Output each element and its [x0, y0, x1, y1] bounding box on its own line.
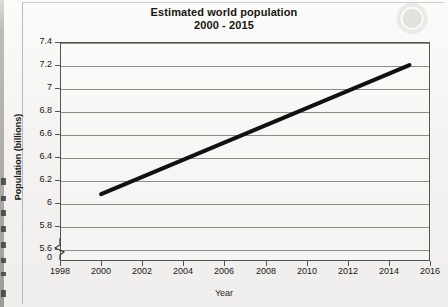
y-axis-origin-label: 0 [6, 252, 52, 262]
x-axis-tick-label: 2006 [204, 266, 244, 276]
y-axis-tick-label: 6.6 [6, 128, 52, 138]
y-axis-tick-label: 7.4 [6, 36, 52, 46]
x-axis-tick-label: 2002 [122, 266, 162, 276]
y-axis-tick-label: 6.4 [6, 151, 52, 161]
y-axis-tick [55, 226, 60, 227]
y-axis-tick [55, 203, 60, 204]
x-axis-tick-label: 2008 [246, 266, 286, 276]
chart-title: Estimated world population 2000 - 2015 [0, 6, 448, 32]
x-axis-title: Year [0, 288, 448, 298]
plot-area [60, 42, 430, 261]
x-axis-tick-label: 2014 [369, 266, 409, 276]
x-axis-tick-label: 1998 [40, 266, 80, 276]
y-axis-tick [55, 111, 60, 112]
chart-title-line-1: Estimated world population [0, 6, 448, 19]
y-axis-tick [55, 88, 60, 89]
x-axis-tick-label: 2010 [287, 266, 327, 276]
gridline-horizontal [61, 158, 429, 159]
gridline-horizontal [61, 89, 429, 90]
gridline-horizontal [61, 250, 429, 251]
gridline-horizontal [61, 43, 429, 44]
x-axis-tick-label: 2012 [328, 266, 368, 276]
y-axis-tick-label: 6.2 [6, 174, 52, 184]
worksheet-page: Estimated world population 2000 - 2015 P… [0, 0, 448, 307]
y-axis-tick-label: 5.8 [6, 220, 52, 230]
x-axis-tick-label: 2004 [163, 266, 203, 276]
y-axis-tick [55, 134, 60, 135]
y-axis-tick [55, 249, 60, 250]
gridline-horizontal [61, 181, 429, 182]
gridline-horizontal [61, 112, 429, 113]
chart-title-line-2: 2000 - 2015 [0, 19, 448, 32]
gridline-horizontal [61, 204, 429, 205]
y-axis-tick-label: 7 [6, 82, 52, 92]
gridline-horizontal [61, 66, 429, 67]
y-axis-tick-label: 6.8 [6, 105, 52, 115]
x-axis-tick-label: 2000 [81, 266, 121, 276]
gridline-horizontal [61, 135, 429, 136]
y-axis-tick [55, 42, 60, 43]
x-axis-tick-label: 2016 [410, 266, 448, 276]
gridline-horizontal [61, 227, 429, 228]
y-axis-tick [55, 180, 60, 181]
scan-margin-mark [1, 210, 6, 216]
y-axis-tick [55, 157, 60, 158]
y-axis-tick-label: 6 [6, 197, 52, 207]
y-axis-tick [55, 65, 60, 66]
scan-margin-mark [1, 272, 6, 276]
y-axis-tick-label: 7.2 [6, 59, 52, 69]
